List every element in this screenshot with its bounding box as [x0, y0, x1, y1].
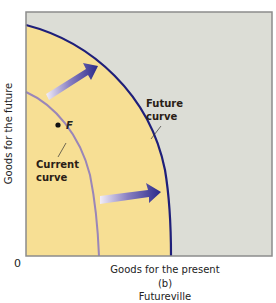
future-curve-label-line1: Future: [146, 97, 183, 110]
current-curve-label-line1: Current: [36, 158, 79, 171]
panel-label: (b): [100, 278, 230, 289]
y-axis-label: Goods for the future: [3, 64, 14, 204]
origin-label: 0: [14, 257, 21, 270]
future-curve-label-line2: curve: [146, 110, 183, 123]
current-curve-label-line2: curve: [36, 171, 79, 184]
x-axis-label: Goods for the present: [100, 264, 230, 275]
current-curve-label: Current curve: [36, 158, 79, 184]
point-f-marker: [55, 122, 60, 127]
chart-caption: Futureville: [100, 291, 230, 302]
ppf-chart: [0, 0, 276, 303]
future-curve-label: Future curve: [146, 97, 183, 123]
point-f-label: F: [66, 120, 73, 131]
